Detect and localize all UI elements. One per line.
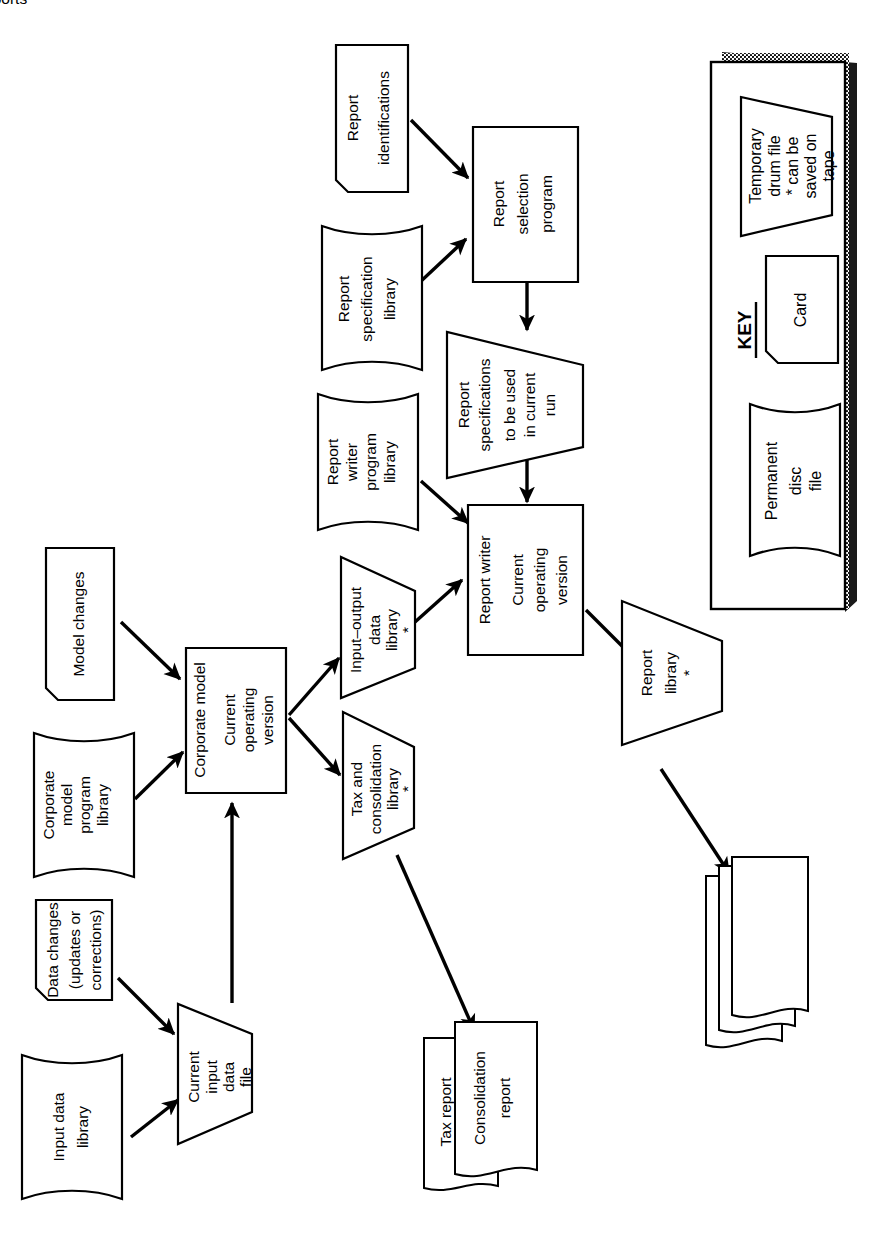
edge-data-changes-to-current-file (118, 978, 174, 1034)
svg-text:to be used: to be used (501, 369, 518, 441)
svg-text:drum file: drum file (766, 135, 783, 196)
node-label: Current (185, 1050, 202, 1102)
svg-text:Current: Current (185, 1050, 202, 1102)
edge-tax-library-to-consolidation-report (397, 855, 474, 1030)
node-data-changes[interactable]: Data changes (updates or corrections) (36, 900, 112, 1000)
node-report-writer[interactable]: Report writer Current operating version (468, 505, 583, 655)
svg-text:file: file (807, 471, 824, 492)
svg-text:library: library (381, 441, 398, 483)
key-item-label: Permanent (763, 441, 780, 520)
node-label: library (381, 441, 398, 483)
svg-text:Report: Report (455, 381, 472, 428)
node-label: Data changes (44, 902, 61, 998)
svg-text:* can be: * can be (784, 137, 801, 196)
svg-text:KEY: KEY (734, 310, 755, 349)
node-label: Report (490, 180, 507, 227)
svg-text:Corporate: Corporate (40, 771, 57, 840)
node-report-writer-program-library[interactable]: Report writer program library (318, 394, 418, 530)
node-report-library[interactable]: Report library * (622, 601, 722, 745)
node-label: input (203, 1060, 220, 1094)
node-current-input-data-file[interactable]: Current input data file (178, 1004, 254, 1144)
node-label: Input–output (347, 586, 364, 673)
node-tax-consolidation-library[interactable]: Tax and consolidation library * (343, 712, 416, 859)
svg-text:operating: operating (240, 688, 257, 753)
node-label: library (74, 1106, 91, 1148)
node-report-identifications[interactable]: Report identifications (336, 45, 408, 192)
svg-text:library: library (74, 1106, 91, 1148)
key-item-label: tape (820, 150, 837, 181)
node-label: specification (358, 256, 375, 341)
svg-text:Card: Card (792, 293, 809, 328)
svg-text:Current: Current (509, 553, 526, 605)
svg-text:Input data: Input data (50, 1092, 67, 1161)
node-label: Tax and (348, 762, 365, 816)
node-label: version (259, 695, 276, 745)
node-consolidation-report[interactable]: Consolidation report (455, 1022, 537, 1176)
node-label: library (381, 278, 398, 320)
node-label: report (496, 1077, 513, 1118)
node-report-selection-program[interactable]: Report selection program (473, 127, 578, 282)
node-label: Current (509, 553, 526, 605)
svg-text:Input–output: Input–output (347, 586, 364, 673)
svg-text:Report: Report (324, 438, 341, 485)
node-label: specifications (476, 358, 493, 451)
node-label: identifications (375, 71, 392, 165)
node-label: program (76, 776, 93, 834)
svg-text:in current: in current (521, 372, 538, 437)
key-legend: KEY Temporary drum file * can be saved o… (711, 52, 857, 612)
reports-sheet-front (732, 857, 808, 1017)
edge-model-library-to-corporate-model (135, 752, 183, 799)
node-report-specification-library[interactable]: Report specification library (322, 226, 422, 370)
svg-text:program: program (76, 776, 93, 834)
svg-text:*: * (399, 627, 416, 633)
key-item-label: saved on (802, 134, 819, 199)
svg-text:Permanent: Permanent (763, 441, 780, 520)
node-label: data (366, 615, 383, 646)
node-corporate-model-program-library[interactable]: Corporate model program library (34, 733, 134, 877)
key-item-label: drum file (766, 135, 783, 196)
node-label: Corporate model (191, 662, 208, 777)
diagram-canvas: Input data library Data changes (updates… (0, 0, 870, 1236)
svg-text:version: version (553, 555, 570, 605)
svg-text:library: library (381, 278, 398, 320)
edge-corporate-model-to-tax-library (289, 718, 340, 775)
edge-input-library-to-current-file (131, 1100, 178, 1137)
edge-report-ids-to-selection-program (411, 120, 468, 178)
reports-stack-label: Reports (0, 0, 27, 7)
svg-text:consolidation: consolidation (367, 744, 384, 834)
svg-text:version: version (259, 695, 276, 745)
svg-text:data: data (220, 1062, 237, 1093)
svg-text:saved on: saved on (802, 134, 819, 199)
node-label: program (362, 433, 379, 491)
node-input-output-data-library[interactable]: Input–output data library * (341, 557, 416, 698)
node-model-changes[interactable]: Model changes (46, 548, 114, 700)
svg-text:specifications: specifications (476, 358, 493, 451)
edge-writer-library-to-report-writer (421, 481, 468, 523)
key-item-card: Card (766, 256, 838, 363)
key-item-label: * can be (784, 137, 801, 196)
key-box-stipple-top (722, 53, 849, 62)
flowchart-svg: Input data library Data changes (updates… (0, 0, 870, 1236)
node-label: * (399, 786, 416, 792)
node-label: library (94, 784, 111, 826)
svg-text:tape: tape (820, 150, 837, 181)
svg-text:library: library (94, 784, 111, 826)
node-corporate-model[interactable]: Corporate model Current operating versio… (186, 648, 286, 793)
node-input-data-library[interactable]: Input data library (22, 1055, 122, 1199)
svg-text:*: * (680, 670, 697, 676)
svg-text:Report: Report (638, 649, 655, 696)
svg-text:file: file (237, 1067, 254, 1087)
key-item-label: disc (787, 467, 804, 495)
node-label: operating (531, 548, 548, 613)
edge-report-library-to-reports-stack (661, 769, 729, 873)
node-report-specifications-current-run[interactable]: Report specifications to be used in curr… (447, 332, 583, 478)
node-label: Corporate (40, 771, 57, 840)
svg-text:Report writer: Report writer (476, 536, 493, 625)
svg-text:data: data (366, 615, 383, 646)
svg-text:operating: operating (531, 548, 548, 613)
node-label: library (383, 609, 400, 651)
key-item-permanent-disc-file: Permanent disc file (750, 404, 840, 556)
svg-text:Report: Report (344, 94, 361, 141)
node-label: selection (514, 173, 531, 234)
node-label: writer (343, 443, 360, 482)
